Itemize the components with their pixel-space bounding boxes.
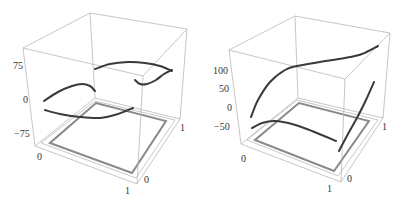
curve-3 xyxy=(95,62,172,71)
z-axis-line xyxy=(229,50,241,144)
x-axis-line xyxy=(35,146,137,184)
plot-right: 100500−500101 xyxy=(213,16,390,194)
tick-label: 0 xyxy=(23,94,28,105)
box-edge xyxy=(383,33,390,118)
tick-label: 0 xyxy=(144,174,149,185)
box-edge xyxy=(229,16,295,50)
tick-label: −50 xyxy=(214,121,230,132)
box-edge xyxy=(90,13,95,98)
box-edge xyxy=(143,29,187,76)
tick-label: 0 xyxy=(241,153,246,164)
box-edge xyxy=(295,16,298,98)
box-edge xyxy=(35,98,95,146)
x-axis-line xyxy=(241,144,341,182)
tick-label: 1 xyxy=(327,183,332,194)
tick-label: 0 xyxy=(227,102,232,113)
box-edge xyxy=(137,76,143,184)
tick-label: 100 xyxy=(213,65,228,76)
box-edge xyxy=(229,50,345,79)
box-edge xyxy=(180,29,187,119)
base-frame-outer xyxy=(247,100,378,176)
plot-left: 750−750101 xyxy=(13,13,187,196)
tick-label: 0 xyxy=(347,173,352,184)
curve-4 xyxy=(135,70,172,85)
tick-label: 0 xyxy=(37,151,42,162)
box-edge xyxy=(298,98,383,118)
tick-label: 50 xyxy=(219,83,229,94)
box-edge xyxy=(295,16,390,33)
figure: 750−750101 100500−500101 xyxy=(0,0,402,202)
tick-label: 1 xyxy=(180,122,185,133)
tick-label: 1 xyxy=(382,121,387,132)
tick-label: 1 xyxy=(125,185,130,196)
tick-label: −75 xyxy=(14,128,30,139)
tick-label: 75 xyxy=(13,60,23,71)
box-edge xyxy=(23,13,90,48)
box-edge xyxy=(90,13,187,29)
curve-1 xyxy=(44,84,95,101)
